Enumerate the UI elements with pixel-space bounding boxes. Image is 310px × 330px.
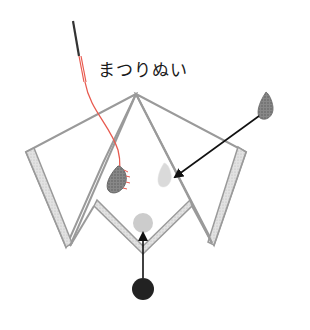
dog-face-diagram xyxy=(0,0,310,330)
blind-stitch-label: まつりぬい xyxy=(98,56,188,81)
nose-placement xyxy=(133,213,153,233)
left-eye xyxy=(107,166,126,193)
right-eye-placement xyxy=(158,163,171,187)
eye-piece xyxy=(258,92,273,119)
nose-piece xyxy=(132,278,154,300)
needle-icon xyxy=(73,21,86,82)
